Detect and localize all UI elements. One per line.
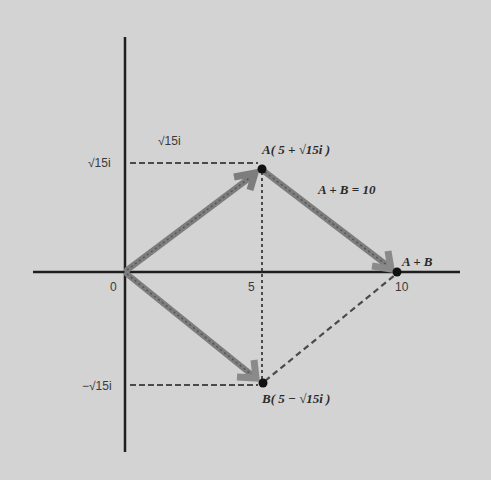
point-a-label: A( 5 + √15i ) — [262, 143, 330, 156]
point-a-dot — [258, 165, 267, 174]
complex-plane-diagram — [0, 0, 491, 480]
y-tick-negative-label: −√15i — [82, 380, 112, 392]
point-b-dot — [259, 379, 268, 388]
sum-point-label: A + B — [402, 255, 433, 268]
guide-b-to-sum — [265, 275, 395, 381]
vector-a — [127, 173, 255, 270]
y-tick-positive-label: √15i — [88, 157, 111, 169]
point-b-label: B( 5 − √15i ) — [262, 392, 330, 405]
sum-equation-label: A + B = 10 — [318, 183, 375, 196]
diagram-canvas: √15i √15i −√15i 0 5 10 A( 5 + √15i ) B( … — [0, 0, 491, 480]
vector-b — [127, 274, 256, 378]
point-sum-dot — [393, 268, 402, 277]
x-tick-5-label: 5 — [248, 281, 255, 293]
floating-sqrt15i-label: √15i — [158, 135, 181, 147]
origin-label: 0 — [110, 281, 117, 293]
x-tick-10-label: 10 — [395, 281, 408, 293]
